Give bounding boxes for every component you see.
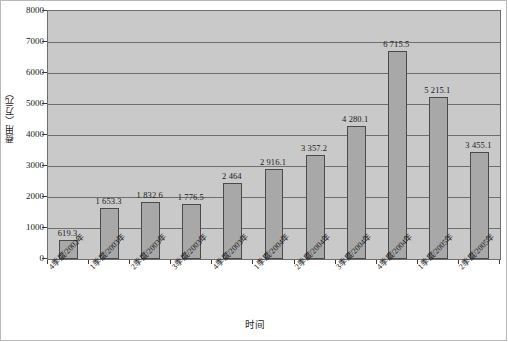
x-axis-tick-labels: 4季度/2002年1季度/2003年2季度/2003年3季度/2003年4季度/… (1, 263, 508, 315)
bar-value-label: 1 776.5 (165, 192, 217, 202)
y-axis-tick-label: 1000 (4, 223, 44, 232)
bar-value-label: 3 357.2 (288, 143, 340, 153)
y-axis-tick-label: 2000 (4, 192, 44, 201)
y-axis-tick-label: 8000 (4, 6, 44, 15)
bar-value-label: 6 715.5 (370, 39, 422, 49)
chart-frame: 010002000300040005000600070008000 费用（万元）… (0, 0, 507, 341)
bar-value-label: 2 464 (206, 171, 258, 181)
plot-area (47, 10, 501, 260)
bar-value-label: 2 916.1 (247, 157, 299, 167)
bar-series (48, 11, 500, 259)
y-axis-title: 费用（万元） (2, 89, 16, 143)
bar-value-label: 4 280.1 (329, 114, 381, 124)
bar-value-label: 3 455.1 (452, 140, 504, 150)
bar (388, 51, 407, 259)
y-axis-tick-label: 6000 (4, 68, 44, 77)
y-axis-tick-label: 3000 (4, 161, 44, 170)
x-axis-title: 时间 (1, 317, 508, 331)
y-axis-tick-label: 7000 (4, 37, 44, 46)
y-axis-tick-label: 0 (4, 254, 44, 263)
bar-value-label: 5 215.1 (411, 85, 463, 95)
